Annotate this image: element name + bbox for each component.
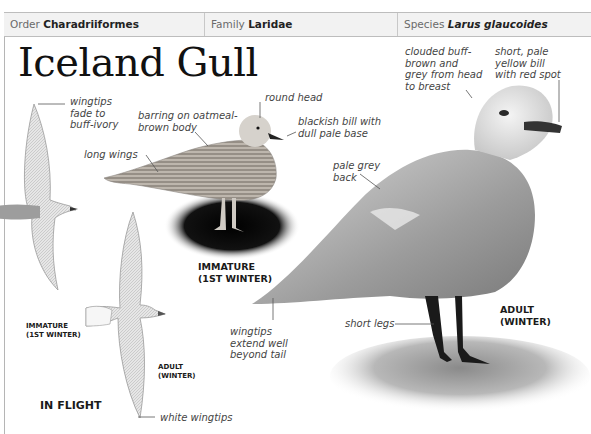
caption-adult-standing: ADULT (WINTER) (500, 304, 551, 328)
adult-flight-illustration (86, 212, 166, 418)
label-pale-grey-back: pale grey back (333, 160, 380, 183)
caption-in-flight: IN FLIGHT (40, 400, 101, 412)
caption-adult-flight: ADULT (WINTER) (158, 363, 196, 381)
label-round-head: round head (265, 92, 322, 104)
caption-immature-flight: IMMATURE (1ST WINTER) (26, 322, 81, 340)
label-white-wingtips: white wingtips (160, 412, 232, 424)
label-blackish-bill: blackish bill with dull pale base (298, 116, 381, 139)
label-short-legs: short legs (345, 318, 394, 330)
label-long-wings: long wings (84, 149, 138, 161)
field-guide-page: Order Charadriiformes Family Laridae Spe… (0, 0, 591, 434)
label-wingtips-extend: wingtips extend well beyond tail (230, 326, 288, 361)
caption-immature-standing: IMMATURE (1ST WINTER) (198, 261, 272, 285)
label-short-bill: short, pale yellow bill with red spot (495, 46, 561, 81)
label-wingtips-fade: wingtips fade to buff-ivory (70, 96, 118, 131)
label-clouded: clouded buff- brown and grey from head t… (405, 46, 482, 92)
label-barring: barring on oatmeal- brown body (138, 110, 238, 133)
immature-flight-illustration (0, 104, 78, 290)
